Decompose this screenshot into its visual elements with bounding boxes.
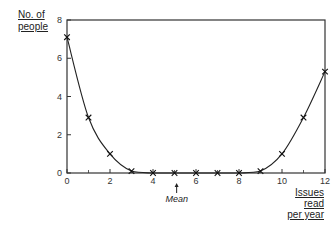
chart-plot: 02468101202468 Mean	[0, 0, 333, 229]
y-tick-label: 4	[57, 92, 62, 102]
y-tick-label: 6	[57, 53, 62, 63]
y-tick-label: 8	[57, 15, 62, 25]
plot-frame	[67, 20, 325, 173]
markers-group	[64, 34, 328, 175]
data-point-marker	[107, 151, 113, 157]
x-tick-label: 0	[64, 176, 69, 186]
data-point-marker	[301, 115, 307, 121]
x-tick-label: 8	[236, 176, 241, 186]
mean-arrow-head	[175, 183, 179, 187]
mean-label: Mean	[165, 194, 188, 204]
data-point-marker	[279, 151, 285, 157]
curve-group	[67, 37, 325, 173]
annotation-group: Mean	[165, 183, 188, 204]
data-point-marker	[86, 115, 92, 121]
x-tick-label: 6	[193, 176, 198, 186]
y-tick-label: 2	[57, 130, 62, 140]
x-tick-label: 10	[277, 176, 287, 186]
x-tick-label: 4	[150, 176, 155, 186]
y-tick-label: 0	[57, 168, 62, 178]
series-line	[67, 37, 325, 173]
x-tick-label: 2	[107, 176, 112, 186]
axes: 02468101202468	[57, 15, 330, 186]
x-tick-label: 12	[320, 176, 330, 186]
